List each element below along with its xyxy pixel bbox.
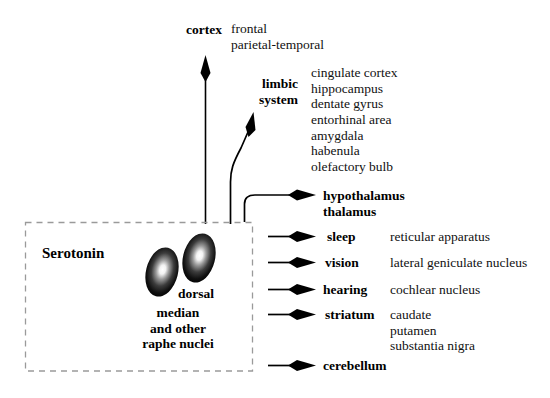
serotonin-pathway-diagram: cortex frontal parietal-temporal limbic … [0,0,550,398]
label-limbic-system: limbic system [218,76,298,107]
label-cortex: cortex [186,22,222,37]
label-striatum: striatum [325,307,375,322]
detail-striatum: caudate putamen substantia nigra [390,307,475,354]
label-sleep: sleep [327,229,356,244]
arrow-cerebellum [268,360,316,371]
serotonin-box-title: Serotonin [42,245,104,262]
label-cerebellum: cerebellum [323,358,386,373]
arrow-cortex [201,55,211,224]
nucleus-dorsal [177,230,220,286]
label-vision: vision [325,255,359,270]
label-hearing: hearing [323,282,367,297]
detail-sleep: reticular apparatus [390,229,490,244]
label-median-raphe-nuclei: median and other raphe nuclei [118,305,238,352]
arrow-limbic-system [231,112,256,224]
arrow-striatum [268,309,316,320]
arrow-hearing [268,284,316,295]
arrow-sleep [268,231,316,242]
arrow-hypothalamus-thalamus [245,190,317,223]
detail-limbic-system: cingulate cortex hippocampus dentate gyr… [311,65,398,175]
detail-cortex: frontal parietal-temporal [231,21,324,52]
label-hypothalamus-thalamus: hypothalamus thalamus [323,188,405,219]
label-dorsal-nucleus: dorsal [178,286,214,301]
arrow-vision [268,257,316,268]
detail-vision: lateral geniculate nucleus [390,255,527,270]
detail-hearing: cochlear nucleus [390,282,480,297]
